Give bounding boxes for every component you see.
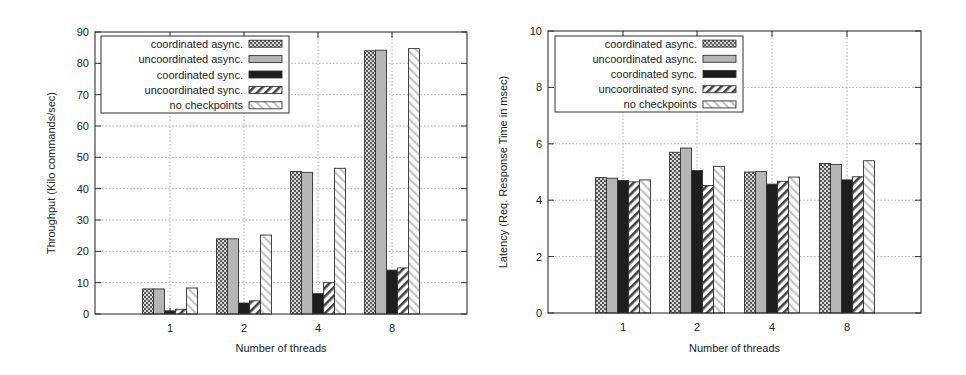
bar-hatch-light [714, 166, 725, 313]
y-tick-label: 2 [536, 251, 542, 263]
x-tick-label: 8 [389, 322, 395, 334]
bar-hatch-back [398, 268, 409, 314]
y-tick-label: 4 [536, 194, 542, 206]
bar-gray [831, 164, 842, 313]
x-axis-label: Number of threads [689, 342, 781, 354]
bar-black [239, 303, 250, 314]
y-tick-label: 70 [77, 89, 89, 101]
legend-swatch-hatch-back [249, 86, 282, 93]
legend-label: uncoordinated async. [592, 53, 697, 65]
y-tick-label: 80 [77, 57, 89, 69]
bar-hatch-light [187, 288, 198, 314]
y-tick-label: 0 [536, 307, 542, 319]
bar-hatch-light [335, 168, 346, 314]
legend-label: coordinated sync. [611, 68, 697, 80]
x-axis-label: Number of threads [235, 342, 327, 354]
throughput-chart: 01020304050607080901248coordinated async… [45, 26, 467, 354]
x-tick-label: 1 [167, 322, 173, 334]
bar-black [387, 270, 398, 314]
bar-black [618, 180, 629, 313]
bar-black [842, 180, 853, 313]
bar-checker [217, 239, 228, 314]
bar-gray [228, 239, 239, 314]
chart-canvas: 01020304050607080901248coordinated async… [0, 0, 966, 375]
legend-label: uncoordinated async. [138, 53, 243, 65]
legend-swatch-gray [249, 56, 282, 63]
bar-hatch-light [261, 235, 272, 314]
bar-hatch-back [250, 301, 261, 314]
legend-swatch-black [703, 71, 736, 78]
latency-chart: 02468101248coordinated async.uncoordinat… [497, 25, 921, 354]
bar-hatch-back [176, 309, 187, 314]
y-tick-label: 8 [536, 81, 542, 93]
x-tick-label: 4 [769, 321, 775, 333]
bar-gray [154, 289, 165, 314]
bar-gray [376, 50, 387, 314]
bar-hatch-back [629, 182, 640, 313]
bar-checker [670, 152, 681, 313]
y-tick-label: 10 [530, 25, 542, 37]
legend-label: no checkpoints [624, 98, 698, 110]
y-tick-label: 50 [77, 151, 89, 163]
legend-swatch-checker [703, 40, 736, 47]
y-tick-label: 30 [77, 214, 89, 226]
legend-label: uncoordinated sync. [145, 84, 243, 96]
bar-hatch-back [778, 181, 789, 313]
y-tick-label: 20 [77, 245, 89, 257]
y-axis-label: Latency (Req. Response Time in msec) [497, 76, 509, 269]
bar-black [692, 171, 703, 313]
legend-label: no checkpoints [170, 99, 244, 111]
legend-label: coordinated sync. [157, 69, 243, 81]
bar-checker [143, 289, 154, 314]
legend-swatch-hatch-light [703, 101, 736, 108]
legend-label: coordinated async. [151, 38, 243, 50]
bar-gray [681, 148, 692, 313]
y-tick-label: 10 [77, 277, 89, 289]
x-tick-label: 1 [620, 321, 626, 333]
y-tick-label: 0 [83, 308, 89, 320]
bar-black [313, 294, 324, 314]
legend-swatch-hatch-light [249, 102, 282, 109]
bar-hatch-light [409, 49, 420, 314]
legend-label: uncoordinated sync. [599, 83, 697, 95]
bar-hatch-light [864, 161, 875, 313]
y-axis-label: Throughput (Kilo commands/sec) [45, 92, 57, 254]
y-tick-label: 6 [536, 138, 542, 150]
y-tick-label: 40 [77, 183, 89, 195]
bar-checker [365, 51, 376, 314]
x-tick-label: 2 [694, 321, 700, 333]
bar-gray [756, 171, 767, 313]
x-tick-label: 2 [241, 322, 247, 334]
legend-swatch-hatch-back [703, 86, 736, 93]
bar-checker [745, 172, 756, 313]
legend-swatch-checker [249, 40, 282, 47]
bar-hatch-light [640, 180, 651, 313]
bar-hatch-back [324, 283, 335, 314]
bar-black [767, 184, 778, 313]
bar-gray [302, 172, 313, 314]
x-tick-label: 4 [315, 322, 321, 334]
legend-swatch-gray [703, 55, 736, 62]
legend-swatch-black [249, 71, 282, 78]
bar-checker [596, 178, 607, 313]
bar-checker [820, 164, 831, 313]
x-tick-label: 8 [844, 321, 850, 333]
bar-gray [607, 178, 618, 313]
bar-hatch-back [703, 186, 714, 313]
bar-hatch-light [789, 177, 800, 313]
bar-hatch-back [853, 177, 864, 313]
bar-checker [291, 171, 302, 314]
legend-label: coordinated async. [605, 38, 697, 50]
y-tick-label: 90 [77, 26, 89, 38]
y-tick-label: 60 [77, 120, 89, 132]
